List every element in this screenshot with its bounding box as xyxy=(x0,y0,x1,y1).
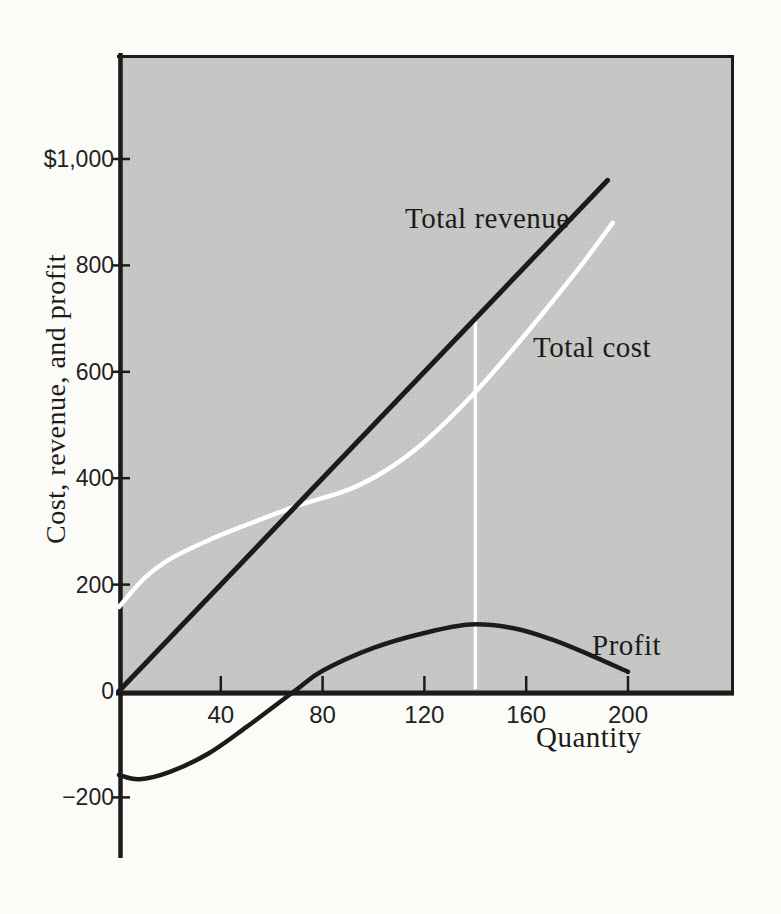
x-tick-label: 120 xyxy=(392,702,456,728)
y-tick-label: 600 xyxy=(28,359,114,385)
y-tick-label: −200 xyxy=(28,784,114,810)
plot-area xyxy=(118,55,734,696)
x-tick-label: 200 xyxy=(596,702,660,728)
x-tick-label: 40 xyxy=(189,702,253,728)
y-tick-label: $1,000 xyxy=(28,146,114,172)
y-tick-label: 200 xyxy=(28,572,114,598)
y-axis-title: Cost, revenue, and profit xyxy=(40,254,72,544)
y-tick-label: 0 xyxy=(28,678,114,704)
series-label-profit: Profit xyxy=(592,629,661,662)
x-tick-label: 160 xyxy=(494,702,558,728)
y-tick-label: 400 xyxy=(28,465,114,491)
series-label-total-revenue: Total revenue xyxy=(405,202,570,235)
chart-canvas xyxy=(0,0,781,914)
x-tick-label: 80 xyxy=(291,702,355,728)
series-label-total-cost: Total cost xyxy=(533,331,651,364)
chart-figure: Cost, revenue, and profit Quantity Total… xyxy=(0,0,781,914)
y-tick-label: 800 xyxy=(28,252,114,278)
